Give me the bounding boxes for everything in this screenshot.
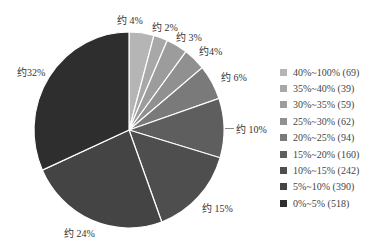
legend-swatch	[280, 167, 287, 174]
slice-label-20-25: 约 6%	[221, 69, 247, 84]
legend-item: 10%~15% (242)	[280, 162, 359, 178]
slice-label-30-35: 约 3%	[176, 29, 202, 44]
slice-label-35-40: 约 2%	[152, 19, 178, 34]
legend-item: 30%~35% (59)	[280, 97, 359, 113]
leader-line-15-20	[225, 128, 234, 129]
legend-swatch	[280, 101, 287, 108]
legend-swatch	[280, 183, 287, 190]
legend-swatch	[280, 151, 287, 158]
legend-swatch	[280, 85, 287, 92]
legend-item: 35%~40% (39)	[280, 80, 359, 96]
slice-label-0-5: 约32%	[17, 64, 45, 79]
legend: 40%~100% (69) 35%~40% (39) 30%~35% (59) …	[280, 64, 359, 212]
legend-swatch	[280, 118, 287, 125]
slice-label-15-20: 约 10%	[236, 121, 267, 136]
legend-item: 20%~25% (94)	[280, 130, 359, 146]
slice-label-10-15: 约 15%	[202, 200, 233, 215]
slice-label-5-10: 约 24%	[64, 225, 95, 240]
legend-swatch	[280, 69, 287, 76]
legend-swatch	[280, 200, 287, 207]
legend-item: 25%~30% (62)	[280, 113, 359, 129]
legend-swatch	[280, 134, 287, 141]
legend-item: 15%~20% (160)	[280, 146, 359, 162]
slice-label-25-30: 约4%	[199, 43, 222, 58]
legend-item: 0%~5% (518)	[280, 195, 359, 211]
slice-label-40-100: 约 4%	[117, 12, 143, 27]
legend-item: 40%~100% (69)	[280, 64, 359, 80]
legend-item: 5%~10% (390)	[280, 179, 359, 195]
